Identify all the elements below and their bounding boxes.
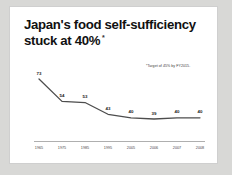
line-chart: 7354534340394040 19651975198519952005200… xyxy=(10,7,218,164)
x-axis-tick-label: 1965 xyxy=(35,146,43,150)
data-point-label: 73 xyxy=(37,71,42,76)
x-axis-tick-label: 1975 xyxy=(58,146,66,150)
x-axis-tick-label: 2008 xyxy=(196,146,204,150)
data-point-label: 53 xyxy=(83,94,88,99)
data-point-label: 40 xyxy=(175,109,180,114)
data-point-label: 40 xyxy=(129,109,134,114)
x-axis-tick-label: 2006 xyxy=(150,146,158,150)
x-axis-tick-label: 2005 xyxy=(127,146,135,150)
slide-panel: Japan's food self-sufficiency stuck at 4… xyxy=(9,6,218,164)
data-point-label: 40 xyxy=(198,109,203,114)
data-point-label: 39 xyxy=(152,111,157,116)
data-point-label: 43 xyxy=(106,106,111,111)
x-axis-tick-label: 2007 xyxy=(173,146,181,150)
x-axis-tick-label: 1985 xyxy=(81,146,89,150)
data-point-label: 54 xyxy=(60,93,65,98)
x-axis-tick-label: 1995 xyxy=(104,146,112,150)
chart-svg xyxy=(10,7,218,164)
